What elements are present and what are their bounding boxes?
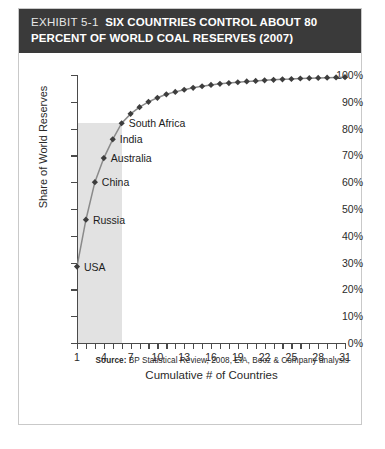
data-point-marker: [199, 83, 205, 89]
source-label: Source:: [96, 356, 127, 365]
y-axis-title: Share of World Reserves: [37, 57, 49, 237]
data-point-marker: [154, 95, 160, 101]
data-point-marker: [208, 82, 214, 88]
series-line: [77, 77, 345, 266]
data-point-marker: [315, 75, 321, 81]
data-point-marker: [288, 76, 294, 82]
data-point-marker: [163, 91, 169, 97]
data-point-marker: [342, 74, 348, 80]
data-point-marker: [262, 77, 268, 83]
data-point-marker: [297, 75, 303, 81]
header-line-1: EXHIBIT 5-1 SIX COUNTRIES CONTROL ABOUT …: [31, 15, 351, 31]
data-point-marker: [253, 78, 259, 84]
exhibit-header-banner: EXHIBIT 5-1 SIX COUNTRIES CONTROL ABOUT …: [19, 9, 361, 53]
data-point-marker: [110, 136, 116, 142]
point-label-india: India: [120, 133, 143, 145]
data-point-marker: [333, 74, 339, 80]
data-point-marker: [306, 75, 312, 81]
exhibit-number: EXHIBIT 5-1: [31, 16, 99, 28]
point-label-china: China: [102, 176, 129, 188]
data-point-marker: [190, 85, 196, 91]
exhibit-title-line2: PERCENT OF WORLD COAL RESERVES (2007): [31, 31, 351, 47]
source-note: Source: BP Statistical Review, 2008, EIA…: [19, 356, 349, 365]
data-point-marker: [217, 81, 223, 87]
data-point-marker: [181, 87, 187, 93]
point-label-south-africa: South Africa: [129, 117, 186, 129]
data-point-marker: [244, 78, 250, 84]
x-axis-title: Cumulative # of Countries: [77, 369, 346, 381]
data-point-marker: [324, 75, 330, 81]
point-label-australia: Australia: [111, 152, 152, 164]
data-point-marker: [101, 155, 107, 161]
data-point-marker: [92, 179, 98, 185]
source-text: BP Statistical Review, 2008, EIA, Booz &…: [126, 356, 349, 365]
data-point-marker: [226, 80, 232, 86]
data-point-marker: [74, 264, 80, 270]
data-point-marker: [270, 77, 276, 83]
exhibit-card: EXHIBIT 5-1 SIX COUNTRIES CONTROL ABOUT …: [18, 8, 362, 425]
data-point-marker: [83, 217, 89, 223]
exhibit-title-line1: SIX COUNTRIES CONTROL ABOUT 80: [99, 16, 318, 28]
data-point-marker: [172, 89, 178, 95]
data-point-marker: [235, 79, 241, 85]
data-point-marker: [279, 76, 285, 82]
chart-plot-wrapper: 0%10%20%30%40%50%60%70%80%90%100% 147101…: [19, 53, 363, 426]
series-markers: [74, 74, 348, 270]
point-label-usa: USA: [84, 261, 106, 273]
point-label-russia: Russia: [93, 214, 125, 226]
